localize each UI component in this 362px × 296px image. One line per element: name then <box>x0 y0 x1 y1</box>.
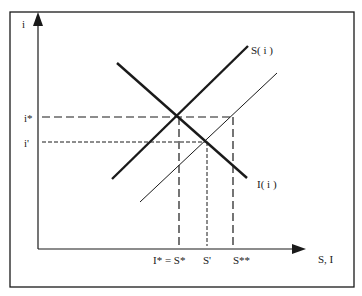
i-star-tick-label: i* <box>24 112 33 124</box>
diagram-canvas: i S, I S( i ) I( i ) i* i' I* = S* S' S*… <box>0 0 362 296</box>
saving-curve-label: S( i ) <box>251 44 273 57</box>
investment-curve <box>117 63 247 178</box>
x-axis-label: S, I <box>318 253 334 265</box>
s-double-star-tick-label: S** <box>233 254 250 266</box>
saving-curve <box>112 46 248 179</box>
x-axis-arrow-icon <box>292 244 306 254</box>
i-prime-tick-label: i' <box>24 137 29 149</box>
s-prime-tick-label: S' <box>203 254 211 266</box>
y-axis-label: i <box>22 18 25 30</box>
diagram-frame <box>10 12 354 287</box>
y-axis-arrow-icon <box>33 12 43 26</box>
investment-curve-label: I( i ) <box>257 178 277 191</box>
equilibrium-tick-label: I* = S* <box>153 254 185 266</box>
